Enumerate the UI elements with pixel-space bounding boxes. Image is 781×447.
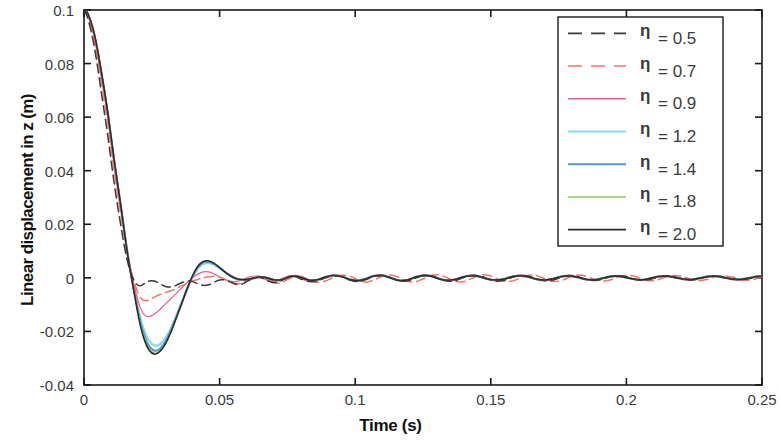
x-tick-label: 0.1 [345, 391, 366, 408]
legend-eta-symbol: η [640, 21, 650, 40]
chart-figure: Linear displacement in z (m) Time (s) 0.… [0, 0, 781, 447]
legend-eta-symbol: η [640, 217, 650, 236]
x-tick-label: 0 [80, 391, 88, 408]
x-tick-label: 0.25 [747, 391, 776, 408]
legend-eta-symbol: η [640, 54, 650, 73]
legend-eta-value: = 1.4 [658, 160, 696, 179]
legend-eta-symbol: η [640, 184, 650, 203]
legend-eta-value: = 0.5 [658, 29, 696, 48]
y-tick-label: -0.02 [0, 323, 74, 340]
legend-eta-symbol: η [640, 86, 650, 105]
y-tick-label: 0.1 [0, 2, 74, 19]
legend-eta-value: = 1.2 [658, 127, 696, 146]
x-tick-label: 0.05 [205, 391, 234, 408]
legend: η= 0.5η= 0.7η= 0.9η= 1.2η= 1.4η= 1.8η= 2… [558, 17, 723, 246]
x-tick-label: 0.15 [476, 391, 505, 408]
y-tick-label: -0.04 [0, 377, 74, 394]
legend-eta-value: = 2.0 [658, 225, 696, 244]
legend-eta-value: = 0.9 [658, 94, 696, 113]
y-tick-label: 0.04 [0, 162, 74, 179]
legend-eta-symbol: η [640, 119, 650, 138]
legend-eta-symbol: η [640, 152, 650, 171]
y-axis-label: Linear displacement in z (m) [18, 50, 38, 350]
y-tick-label: 0.06 [0, 109, 74, 126]
y-tick-label: 0.02 [0, 216, 74, 233]
legend-eta-value: = 1.8 [658, 192, 696, 211]
y-tick-label: 0.08 [0, 55, 74, 72]
x-axis-label: Time (s) [0, 416, 781, 436]
plot-canvas: η= 0.5η= 0.7η= 0.9η= 1.2η= 1.4η= 1.8η= 2… [0, 0, 781, 447]
legend-eta-value: = 0.7 [658, 62, 696, 81]
x-tick-label: 0.2 [616, 391, 637, 408]
y-tick-label: 0 [0, 269, 74, 286]
